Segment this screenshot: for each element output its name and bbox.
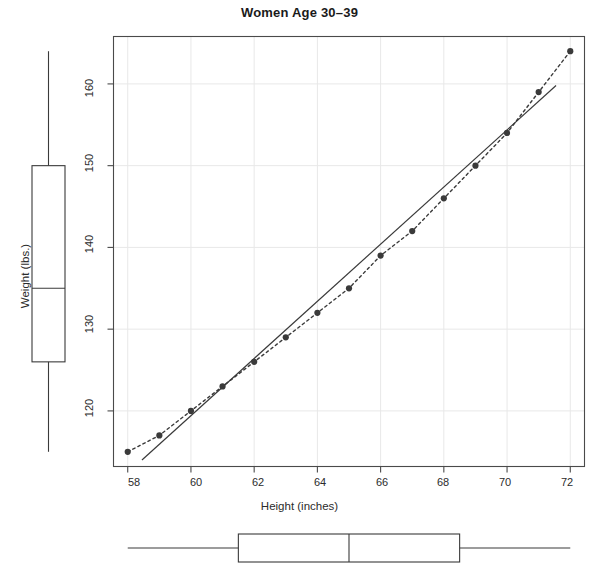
grid-lines [114,37,585,467]
dashed-trend-line [128,51,571,452]
weight-marginal-boxplot [32,51,65,452]
height-marginal-boxplot [128,534,571,562]
data-points [125,48,574,455]
axis-ticks [108,84,571,473]
chart-canvas: Women Age 30–39 Weight (lbs.) Height (in… [0,0,599,576]
plot-frame [114,37,585,467]
regression-line [142,86,556,460]
chart-graphics [0,0,599,576]
